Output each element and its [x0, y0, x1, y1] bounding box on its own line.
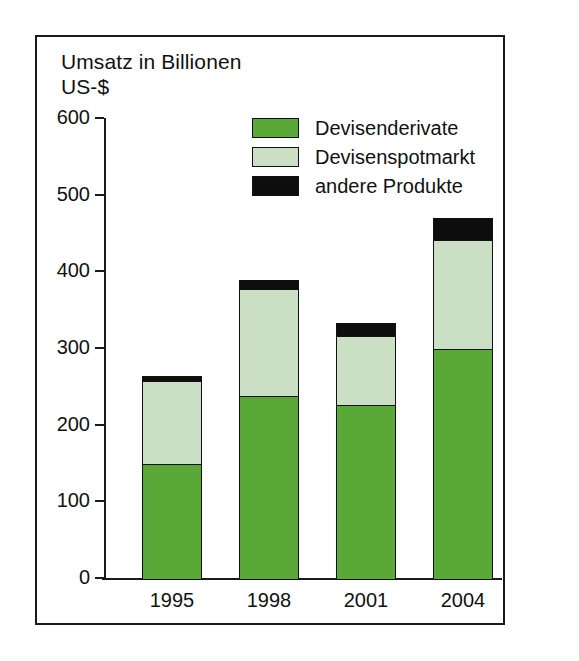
legend-swatch-icon: [252, 147, 299, 167]
legend-label: Devisenderivate: [315, 117, 458, 139]
x-axis-label: 2001: [321, 588, 411, 612]
y-axis-tick-label: 300: [57, 336, 90, 358]
y-axis-line: [104, 118, 106, 578]
chart-title: Umsatz in Billionen US-$: [61, 49, 241, 99]
y-axis-tick-label: 500: [57, 183, 90, 205]
bar-segment[interactable]: [239, 289, 299, 398]
bar-segment[interactable]: [142, 464, 202, 580]
bar-segment[interactable]: [433, 349, 493, 580]
y-axis-tick-label: 0: [79, 566, 90, 588]
y-axis-tick-label: 200: [57, 413, 90, 435]
legend-item[interactable]: Devisenderivate: [252, 113, 475, 142]
bar-segment[interactable]: [433, 240, 493, 350]
y-axis-tick-label: 100: [57, 489, 90, 511]
y-axis-tick-mark: [95, 347, 104, 349]
y-axis-tick-mark: [95, 424, 104, 426]
bar-segment[interactable]: [336, 336, 396, 406]
y-axis-tick-mark: [95, 577, 104, 579]
legend-item[interactable]: andere Produkte: [252, 171, 475, 200]
x-axis-label: 1995: [127, 588, 217, 612]
bar-segment[interactable]: [239, 396, 299, 579]
legend-label: Devisenspotmarkt: [315, 146, 475, 168]
bar-segment[interactable]: [142, 381, 202, 465]
bar-segment[interactable]: [336, 405, 396, 580]
bar-segment[interactable]: [433, 218, 493, 241]
x-axis-label: 2004: [418, 588, 508, 612]
y-axis-tick-label: 600: [57, 106, 90, 128]
y-axis-tick-mark: [95, 270, 104, 272]
chart-frame: Umsatz in Billionen US-$ 010020030040050…: [35, 35, 505, 625]
bar-stack[interactable]: [239, 280, 299, 578]
y-axis-tick-mark: [95, 194, 104, 196]
y-axis-tick-mark: [95, 117, 104, 119]
bar-stack[interactable]: [433, 218, 493, 578]
bar-stack[interactable]: [142, 376, 202, 578]
y-axis-tick-label: 400: [57, 259, 90, 281]
legend-swatch-icon: [252, 176, 299, 196]
y-axis-tick-mark: [95, 500, 104, 502]
legend-label: andere Produkte: [315, 175, 463, 197]
bar-stack[interactable]: [336, 323, 396, 578]
legend-item[interactable]: Devisenspotmarkt: [252, 142, 475, 171]
chart-legend: DevisenderivateDevisenspotmarktandere Pr…: [252, 113, 475, 200]
legend-swatch-icon: [252, 118, 299, 138]
x-axis-label: 1998: [224, 588, 314, 612]
